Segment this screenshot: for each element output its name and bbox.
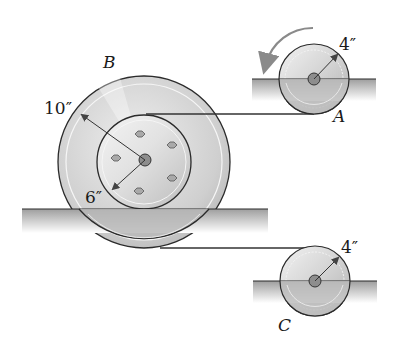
wheel-a [252, 28, 376, 114]
wheel-c [253, 246, 377, 316]
label-c: C [278, 317, 291, 334]
pulley-diagram: B 10″ 6″ A 4″ C 4″ [0, 0, 396, 348]
label-b-outer-radius: 10″ [44, 100, 72, 117]
label-c-radius: 4″ [341, 239, 358, 256]
ground-b [22, 209, 268, 239]
label-b-inner-radius: 6″ [85, 189, 102, 206]
label-a: A [333, 108, 345, 125]
label-b: B [103, 54, 116, 71]
label-a-radius: 4″ [339, 36, 356, 53]
diagram-canvas [0, 0, 396, 348]
